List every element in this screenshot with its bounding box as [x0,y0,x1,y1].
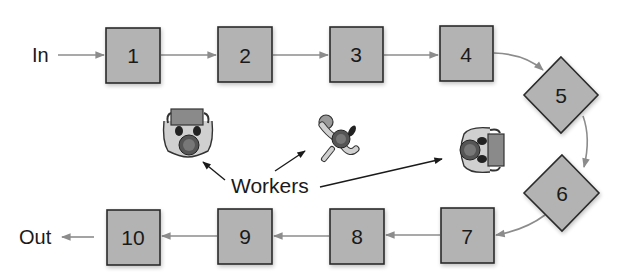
station-8-label: 8 [351,225,363,248]
arrow-5-to-6 [583,116,587,167]
output-label: Out [19,226,52,248]
workers-label: Workers [231,174,309,197]
station-6-label: 6 [556,182,568,205]
pointer-worker-2 [275,151,305,171]
station-5-label: 5 [555,84,567,107]
input-label: In [32,44,49,66]
station-2-label: 2 [239,44,251,67]
station-1-label: 1 [127,44,139,67]
assembly-line-diagram: In Out 1 2 3 4 5 6 7 8 9 10 [0,0,623,277]
pointer-worker-1 [203,162,225,180]
worker-3-icon [460,128,504,173]
station-7-label: 7 [461,225,473,248]
arrow-4-to-5 [494,53,543,70]
station-9-label: 9 [239,225,251,248]
station-10-label: 10 [121,226,144,249]
station-4-label: 4 [460,43,472,66]
pointer-worker-3 [320,159,442,187]
worker-2-icon [319,115,358,159]
station-3-label: 3 [350,43,362,66]
worker-1-icon [164,109,213,157]
arrow-6-to-7 [496,215,545,235]
